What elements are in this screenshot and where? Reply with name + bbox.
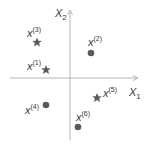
point-label: x(2) xyxy=(87,35,102,48)
point-x4: x(4) xyxy=(24,102,49,116)
point-x3: x(3) xyxy=(26,26,42,47)
point-x5: x(5) xyxy=(92,86,117,102)
point-x1: x(1) xyxy=(26,59,51,74)
point-x2: x(2) xyxy=(87,35,102,56)
circle-marker-icon xyxy=(88,50,95,57)
star-marker-icon xyxy=(92,93,102,102)
circle-marker-icon xyxy=(75,124,82,131)
star-marker-icon xyxy=(32,38,42,47)
point-label: x(3) xyxy=(26,26,41,39)
star-marker-icon xyxy=(41,65,51,74)
point-label: x(1) xyxy=(26,59,41,72)
point-x6: x(6) xyxy=(75,110,90,130)
x-axis-label: X1 xyxy=(128,86,141,101)
scatter-diagram: X2 X1 x(3) x(2) x(1) x(5) x(4) x(6) xyxy=(0,0,149,147)
point-label: x(5) xyxy=(102,86,117,99)
point-label: x(4) xyxy=(24,103,39,116)
y-axis-label: X2 xyxy=(54,7,67,22)
circle-marker-icon xyxy=(43,102,50,109)
point-label: x(6) xyxy=(75,110,90,123)
